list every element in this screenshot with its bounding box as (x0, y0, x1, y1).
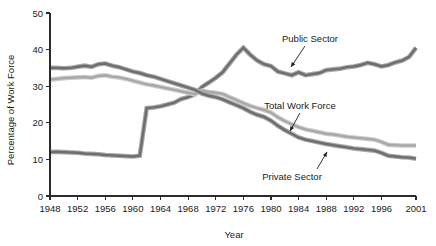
y-tick-label: 0 (38, 191, 43, 202)
x-tick-label: 1968 (178, 203, 199, 214)
x-tick-label: 1976 (233, 203, 254, 214)
x-tick-label: 1972 (205, 203, 226, 214)
x-tick-label: 1956 (95, 203, 116, 214)
x-tick-label: 1960 (122, 203, 143, 214)
annotation-label: Private Sector (262, 171, 322, 182)
y-tick-label: 30 (32, 81, 43, 92)
y-axis-title: Percentage of Work Force (5, 55, 16, 166)
annotation-private-sector: Private Sector (262, 152, 327, 182)
y-tick-label: 10 (32, 154, 43, 165)
x-tick-label: 1992 (343, 203, 364, 214)
annotation-public-sector: Public Sector (282, 33, 338, 67)
series-line-private-sector (50, 64, 416, 159)
x-tick-label: 1964 (150, 203, 171, 214)
x-tick-label: 1952 (67, 203, 88, 214)
series-halo-total-work-force (50, 75, 416, 145)
line-chart-figure: 0102030405019481952195619601964196819721… (0, 0, 436, 246)
x-tick-label: 1948 (39, 203, 60, 214)
annotations-group: Public SectorTotal Work ForcePrivate Sec… (262, 33, 338, 182)
y-tick-label: 50 (32, 8, 43, 19)
chart-canvas: 0102030405019481952195619601964196819721… (0, 0, 436, 246)
x-tick-label: 1980 (260, 203, 281, 214)
annotation-label: Public Sector (282, 33, 338, 44)
x-axis-title: Year (224, 229, 243, 240)
series-group (50, 48, 416, 159)
annotation-label: Total Work Force (264, 100, 336, 111)
tick-group: 0102030405019481952195619601964196819721… (32, 8, 426, 215)
x-tick-label: 2001 (405, 203, 426, 214)
x-tick-label: 1984 (288, 203, 309, 214)
series-line-total-work-force (50, 75, 416, 145)
x-tick-label: 1996 (371, 203, 392, 214)
x-tick-label: 1988 (316, 203, 337, 214)
series-halo-private-sector (50, 64, 416, 159)
y-tick-label: 40 (32, 44, 43, 55)
y-tick-label: 20 (32, 117, 43, 128)
annotation-arrowhead (291, 62, 295, 67)
